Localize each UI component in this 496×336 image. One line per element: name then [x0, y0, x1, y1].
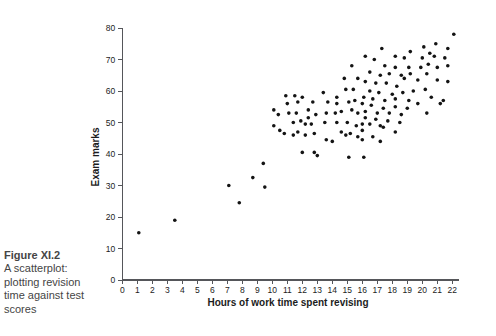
svg-text:15: 15	[343, 285, 353, 295]
figure-caption: Figure XI.2 A scatterplot: plotting revi…	[4, 249, 112, 316]
svg-text:50: 50	[106, 118, 116, 128]
svg-text:6: 6	[210, 285, 215, 295]
svg-text:14: 14	[328, 285, 338, 295]
caption-line: A scatterplot:	[4, 262, 112, 275]
svg-text:20: 20	[418, 285, 428, 295]
svg-text:8: 8	[240, 285, 245, 295]
svg-text:13: 13	[313, 285, 323, 295]
svg-text:9: 9	[255, 285, 260, 295]
svg-text:7: 7	[225, 285, 230, 295]
caption-line: time against test	[4, 289, 112, 302]
svg-text:70: 70	[106, 55, 116, 65]
caption-title: Figure XI.2	[4, 249, 112, 262]
svg-text:3: 3	[165, 285, 170, 295]
svg-text:10: 10	[268, 285, 278, 295]
x-axis-label: Hours of work time spent revising	[122, 297, 454, 308]
svg-text:17: 17	[373, 285, 383, 295]
svg-text:22: 22	[448, 285, 458, 295]
caption-line: plotting revision	[4, 276, 112, 289]
svg-text:19: 19	[403, 285, 413, 295]
svg-text:11: 11	[283, 285, 292, 295]
svg-text:40: 40	[106, 149, 116, 159]
svg-text:1: 1	[135, 285, 140, 295]
svg-text:18: 18	[388, 285, 398, 295]
svg-text:60: 60	[106, 86, 116, 96]
svg-text:4: 4	[180, 285, 185, 295]
svg-text:5: 5	[195, 285, 200, 295]
y-axis-label: Exam marks	[90, 122, 104, 192]
svg-text:0: 0	[120, 285, 125, 295]
svg-text:2: 2	[150, 285, 155, 295]
svg-text:80: 80	[106, 23, 116, 33]
caption-line: scores	[4, 303, 112, 316]
svg-text:12: 12	[298, 285, 308, 295]
svg-text:30: 30	[106, 181, 116, 191]
figure-container: 0123456789101112131415161718192021220102…	[0, 0, 496, 336]
svg-text:21: 21	[433, 285, 443, 295]
svg-text:20: 20	[106, 212, 116, 222]
svg-text:16: 16	[358, 285, 368, 295]
